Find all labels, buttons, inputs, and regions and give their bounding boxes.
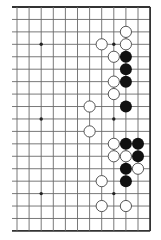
go-board — [0, 0, 161, 240]
white-stone — [96, 176, 107, 187]
white-stone — [84, 101, 95, 112]
white-stone — [120, 151, 131, 162]
white-stone — [108, 151, 119, 162]
star-point — [112, 192, 115, 195]
white-stone — [120, 200, 131, 211]
black-stone — [132, 138, 144, 150]
black-stone — [120, 101, 132, 113]
white-stone — [108, 51, 119, 62]
white-stone — [108, 138, 119, 149]
white-stone — [120, 26, 131, 37]
star-point — [40, 192, 43, 195]
white-stone — [96, 39, 107, 50]
black-stone — [120, 63, 132, 75]
black-stone — [120, 163, 132, 175]
star-point — [112, 43, 115, 46]
black-stone — [132, 150, 144, 162]
star-point — [40, 43, 43, 46]
black-stone — [120, 76, 132, 88]
white-stone — [120, 39, 131, 50]
white-stone — [108, 88, 119, 99]
black-stone — [120, 175, 132, 187]
star-point — [112, 117, 115, 120]
white-stone — [84, 126, 95, 137]
black-stone — [120, 51, 132, 63]
white-stone — [96, 200, 107, 211]
white-stone — [132, 163, 143, 174]
star-point — [40, 117, 43, 120]
black-stone — [120, 138, 132, 150]
white-stone — [108, 76, 119, 87]
